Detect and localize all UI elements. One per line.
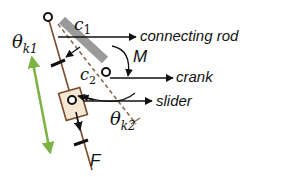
label-crank: crank bbox=[176, 68, 214, 85]
label-force-F: F bbox=[90, 151, 102, 170]
moment-arc bbox=[112, 46, 129, 76]
label-moment-M: M bbox=[133, 47, 148, 66]
mechanism-diagram: c1 c2 θk1 θk2 M F connecting rod crank s… bbox=[0, 0, 281, 177]
stroke-direction-double-arrow bbox=[32, 58, 50, 152]
crank-pivot-c2 bbox=[102, 68, 110, 76]
slider-pivot bbox=[68, 96, 76, 104]
label-theta-k2: θk2 bbox=[110, 108, 136, 133]
rod-cut-mark-upper bbox=[51, 60, 65, 66]
theta-k2-arc bbox=[82, 93, 135, 101]
top-pivot bbox=[44, 13, 52, 21]
label-connecting-rod: connecting rod bbox=[140, 27, 239, 44]
rod-cut-mark-lower bbox=[74, 140, 88, 145]
label-c1: c1 bbox=[74, 14, 91, 37]
label-theta-k1: θk1 bbox=[12, 31, 38, 56]
label-slider: slider bbox=[156, 92, 193, 109]
reaction-arrow-upper bbox=[66, 47, 80, 57]
label-c2: c2 bbox=[80, 65, 96, 87]
